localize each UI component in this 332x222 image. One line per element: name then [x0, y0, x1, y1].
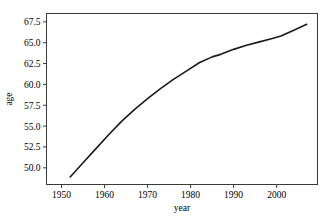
x-tick-label: 1970 [138, 190, 157, 200]
y-tick-label: 60.0 [24, 80, 41, 90]
y-tick-label: 50.0 [24, 163, 41, 173]
x-axis-ticks: 195019601970198019902000 [52, 185, 286, 200]
x-tick-label: 2000 [267, 190, 286, 200]
x-tick-label: 1960 [95, 190, 114, 200]
x-tick-label: 1990 [224, 190, 243, 200]
y-tick-label: 67.5 [24, 17, 41, 27]
y-tick-label: 62.5 [24, 59, 41, 69]
y-tick-label: 52.5 [24, 142, 41, 152]
y-tick-label: 65.0 [24, 38, 41, 48]
x-tick-label: 1950 [52, 190, 71, 200]
x-axis-title: year [174, 203, 191, 213]
y-axis-title: age [4, 92, 14, 105]
data-series-age [70, 24, 307, 177]
x-tick-label: 1980 [181, 190, 200, 200]
line-chart: 50.052.555.057.560.062.565.067.5 1950196… [0, 0, 332, 222]
y-tick-label: 57.5 [24, 101, 41, 111]
y-tick-label: 55.0 [24, 122, 41, 132]
y-axis-ticks: 50.052.555.057.560.062.565.067.5 [24, 17, 47, 173]
chart-figure: 50.052.555.057.560.062.565.067.5 1950196… [0, 0, 332, 222]
